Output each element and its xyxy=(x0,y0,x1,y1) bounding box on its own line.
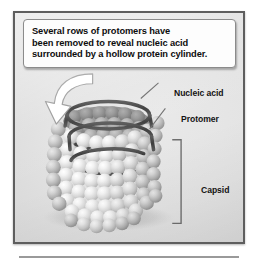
bottom-divider-rule xyxy=(19,256,239,258)
leader-line-nucleic-acid xyxy=(141,83,159,99)
figure-root: Several rows of protomers have been remo… xyxy=(0,0,258,278)
callout-line-1: Several rows of protomers have xyxy=(32,26,228,38)
label-capsid: Capsid xyxy=(201,185,229,195)
callout-line-3: surrounded by a hollow protein cylinder. xyxy=(32,49,228,61)
label-protomer: Protomer xyxy=(181,114,219,124)
illustration-panel: Several rows of protomers have been remo… xyxy=(13,11,245,244)
label-nucleic-acid: Nucleic acid xyxy=(174,88,224,98)
capsid-bracket xyxy=(172,140,181,224)
explanatory-callout: Several rows of protomers have been remo… xyxy=(23,19,236,68)
callout-line-2: been removed to reveal nucleic acid xyxy=(32,38,228,50)
